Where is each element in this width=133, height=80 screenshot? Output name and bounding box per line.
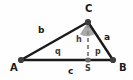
segment-label-p: p — [95, 48, 101, 56]
vertex-dot-s — [85, 57, 90, 62]
vertex-dot-b — [110, 57, 116, 63]
side-label-b: b — [38, 26, 44, 35]
segment-label-q: q — [55, 48, 61, 56]
geometry-figure: A B C S a b c h q p — [0, 0, 133, 80]
vertex-label-s: S — [85, 65, 91, 73]
vertex-label-a: A — [10, 63, 18, 73]
vertex-label-b: B — [119, 63, 127, 73]
side-label-c: c — [68, 67, 73, 76]
segment-label-h: h — [76, 36, 82, 44]
side-label-a: a — [104, 33, 110, 42]
vertex-dot-c — [85, 19, 91, 25]
triangle-drawing — [0, 0, 133, 80]
vertex-label-c: C — [85, 4, 92, 14]
vertex-dot-a — [18, 57, 24, 63]
